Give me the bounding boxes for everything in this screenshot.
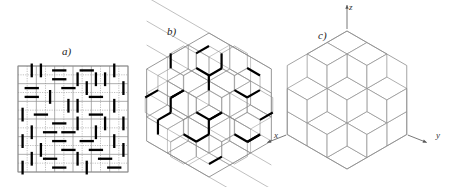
- dimer-bond: [234, 134, 247, 141]
- panel-a-grid: [18, 66, 128, 172]
- dimer-bond: [196, 134, 209, 141]
- rhombus-cell: [209, 81, 230, 117]
- panel-a-lattice: [0, 0, 150, 187]
- figure-root: a) b) c) z x y: [0, 0, 451, 187]
- panel-a: a): [0, 0, 150, 187]
- dimer-bond: [196, 46, 209, 53]
- dimer-bond: [171, 90, 184, 97]
- panel-c: c) z x y: [270, 0, 451, 187]
- dimer-bond: [247, 90, 260, 97]
- dimer-bond: [209, 157, 222, 164]
- panel-c-lozenges: [287, 31, 407, 169]
- rhombus-cell: [251, 81, 272, 117]
- dimer-bond: [247, 68, 260, 75]
- axis-label-y: y: [436, 131, 440, 140]
- dimer-bond: [158, 112, 171, 119]
- dimer-bond: [209, 112, 222, 119]
- dimer-bond: [196, 112, 209, 119]
- dimer-bond: [234, 90, 247, 97]
- panel-b-label: b): [167, 26, 176, 37]
- axis-label-z: z: [349, 3, 353, 12]
- dimer-bond: [247, 135, 260, 142]
- dimer-bond: [196, 68, 209, 75]
- panel-c-label: c): [318, 30, 327, 41]
- panel-c-tiling: [270, 0, 451, 187]
- panel-b-lattice: [135, 0, 285, 187]
- panel-b: b): [135, 0, 285, 187]
- axis-label-x: x: [274, 131, 278, 140]
- panel-a-label: a): [62, 46, 71, 57]
- dimer-bond: [184, 134, 197, 141]
- panel-b-rhombus-mesh: [147, 45, 272, 165]
- dimer-bond: [145, 90, 158, 97]
